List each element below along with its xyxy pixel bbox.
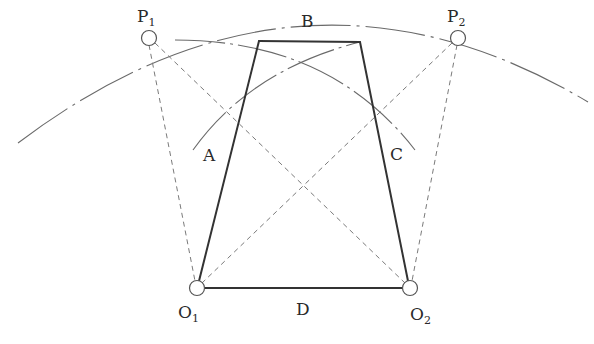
label-b: B [301,13,314,30]
label-o1-main: O [178,302,192,322]
construction-line-p2-o1 [202,43,452,283]
arc-about-o1 [193,42,360,150]
label-p1: P1 [137,8,155,28]
link-b [259,41,360,42]
construction-line-p2-o2 [412,45,457,281]
label-a: A [203,147,215,164]
coupler-path-arc [18,25,588,143]
label-p2: P2 [447,8,465,28]
label-c: C [390,146,403,163]
label-p2-main: P [447,6,458,26]
label-o1-sub: 1 [192,312,199,325]
linkage-diagram [0,0,594,344]
label-p1-sub: 1 [148,16,155,29]
pivot-o1-icon [190,281,205,296]
label-p1-main: P [137,6,148,26]
label-d: D [296,301,310,318]
label-o2-sub: 2 [424,314,431,327]
label-o1: O1 [178,304,199,324]
label-p2-sub: 2 [458,16,465,29]
label-o2-main: O [410,304,424,324]
construction-line-p1-o1 [149,45,195,281]
pivot-p2-icon [451,31,466,46]
label-o2: O2 [410,306,431,326]
pivot-o2-icon [403,281,418,296]
pivot-p1-icon [142,31,157,46]
